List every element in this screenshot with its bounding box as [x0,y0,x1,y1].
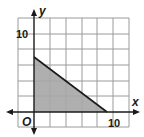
x-axis-label: x [132,96,139,108]
x-tick-label-10: 10 [108,118,120,129]
y-axis-arrow-up-icon [31,9,37,16]
x-axis-arrow-right-icon [133,109,140,115]
origin-label: O [22,116,31,128]
y-axis-label: y [39,5,46,17]
y-axis-arrow-down-icon [31,128,37,135]
x-axis-arrow-left-icon [6,109,13,115]
y-tick-label-10: 10 [16,29,28,40]
